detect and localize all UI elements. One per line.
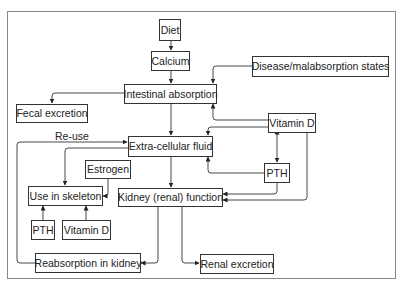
node-disease-malabsorption-states: Disease/malabsorption states — [252, 56, 389, 77]
node-extra-cellular-fluid: Extra-cellular fluid — [128, 136, 213, 157]
node-estrogen: Estrogen — [85, 160, 131, 179]
node-renal-excretion: Renal excretion — [200, 254, 274, 274]
node-calcium: Calcium — [151, 51, 190, 71]
node-fecal-excretion: Fecal excretion — [16, 104, 88, 123]
calcium-metabolism-diagram: Diet Calcium Disease/malabsorption state… — [0, 0, 405, 284]
node-vitamin-d-left: Vitamin D — [62, 220, 111, 240]
node-use-in-skeleton: Use in skeleton — [28, 186, 103, 206]
node-vitamin-d-right: Vitamin D — [268, 113, 316, 133]
node-intestinal-absorption: Intestinal absorption — [124, 84, 217, 104]
edge-label-reuse: Re-use — [55, 130, 89, 142]
node-diet: Diet — [159, 19, 181, 41]
node-reabsorption-in-kidney: Reabsorption in kidney — [35, 253, 141, 273]
node-pth-right: PTH — [264, 163, 290, 183]
node-kidney-renal-function: Kidney (renal) function — [118, 188, 223, 207]
node-pth-left: PTH — [31, 220, 55, 240]
